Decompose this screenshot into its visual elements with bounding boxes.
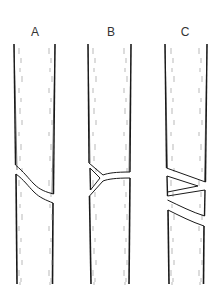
panel-a-tube: [14, 44, 55, 285]
panel-b-tube: [88, 44, 131, 285]
diagram-canvas: [0, 0, 216, 300]
tube-crack-figure: A B C: [0, 0, 216, 300]
panel-c-tube: [165, 44, 207, 285]
